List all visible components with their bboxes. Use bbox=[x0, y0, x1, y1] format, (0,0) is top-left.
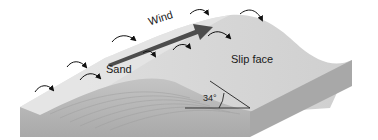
dune-illustration bbox=[0, 0, 378, 140]
slip-face-label: Slip face bbox=[231, 54, 273, 65]
angle-label: 34° bbox=[203, 94, 217, 103]
dune-diagram: Wind Sand Slip face 34° bbox=[0, 0, 378, 140]
sand-label: Sand bbox=[106, 64, 132, 75]
